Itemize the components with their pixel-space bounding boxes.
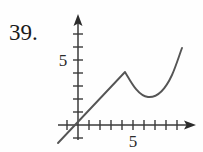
curve-path <box>58 48 182 143</box>
figure-container: 39. <box>0 0 203 152</box>
y-axis-tick-label-5: 5 <box>59 51 68 70</box>
x-axis-tick-label-5: 5 <box>129 132 138 151</box>
graph-plot: 5 5 <box>0 0 203 152</box>
